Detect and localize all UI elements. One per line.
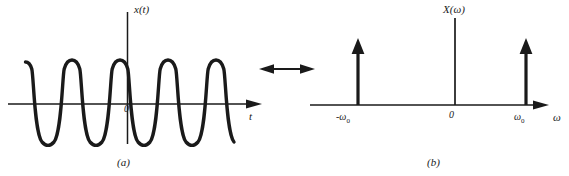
- panel-caption-b: (b): [427, 157, 440, 168]
- tick-label-positive-omega0-text: ω: [514, 111, 521, 122]
- signal-label-x-omega: X(ω): [443, 4, 465, 15]
- arrow-head-right: [300, 64, 315, 74]
- tick-label-positive-omega0: ω0: [514, 112, 525, 125]
- fourier-transform-pair-arrow-icon: [259, 64, 315, 74]
- cosine-waveform: [26, 60, 235, 145]
- frequency-axis-arrowhead: [533, 101, 549, 110]
- panel-a-graphics: [8, 12, 262, 145]
- figure-graphics: [0, 0, 569, 176]
- panel-caption-a: (a): [117, 157, 130, 168]
- arrow-head-left: [259, 64, 274, 74]
- tick-label-negative-omega0-subscript: 0: [346, 117, 350, 125]
- x-axis-label-omega: ω: [553, 112, 561, 123]
- impulse-negative-omega0: [352, 38, 365, 105]
- tick-label-negative-omega0-text: -ω: [336, 111, 346, 122]
- time-axis-arrowhead: [246, 100, 262, 109]
- tick-label-positive-omega0-subscript: 0: [521, 117, 525, 125]
- origin-label-panel-a: 0: [124, 104, 129, 114]
- x-axis-label-t: t: [249, 111, 252, 122]
- tick-label-negative-omega0: -ω0: [336, 112, 350, 125]
- figure-root: x(t) 0 t (a) X(ω) -ω0 0 ω0 ω (b): [0, 0, 569, 176]
- signal-label-xt: x(t): [134, 4, 149, 15]
- impulse-positive-omega0: [520, 38, 533, 105]
- panel-b-graphics: [310, 18, 549, 110]
- tick-label-zero: 0: [449, 110, 454, 120]
